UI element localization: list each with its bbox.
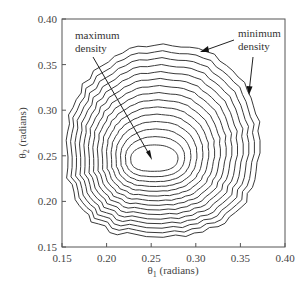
x-tick-label: 0.25 [142, 252, 162, 264]
arrow-min-density-right [250, 57, 254, 88]
x-axis-ticks: 0.150.200.250.300.350.40 [52, 243, 295, 264]
y-axis-label: θ2 (radians) [16, 107, 31, 158]
y-tick-label: 0.15 [38, 241, 58, 253]
x-tick-label: 0.35 [231, 252, 251, 264]
x-tick-label: 0.30 [186, 252, 206, 264]
arrowhead-min-top-icon [200, 46, 209, 52]
annotation-max-line1: maximum [75, 29, 120, 41]
contour-line [88, 78, 232, 214]
contour-plot: 0.150.200.250.300.350.40 0.150.200.250.3… [0, 0, 307, 298]
y-tick-label: 0.30 [38, 104, 58, 116]
x-axis-label: θ1 (radians) [147, 264, 198, 279]
y-tick-label: 0.25 [38, 150, 58, 162]
density-contours [66, 44, 260, 237]
annotation-min-line1: minimum [238, 27, 281, 39]
arrowhead-max-icon [146, 150, 152, 160]
y-tick-label: 0.40 [38, 13, 58, 25]
y-tick-label: 0.20 [38, 195, 58, 207]
y-tick-label: 0.35 [38, 59, 58, 71]
x-tick-label: 0.20 [97, 252, 117, 264]
contour-line [102, 100, 215, 201]
annotation-max-line2: density [75, 42, 107, 54]
contour-line [131, 145, 178, 171]
arrow-min-density-top [206, 40, 234, 50]
x-tick-label: 0.15 [52, 252, 72, 264]
contour-line [125, 137, 184, 177]
annotation-min-line2: density [238, 40, 270, 52]
x-tick-label: 0.40 [275, 252, 295, 264]
